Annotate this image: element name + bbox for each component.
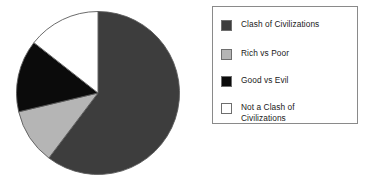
legend-label-rich-vs-poor: Rich vs Poor [241, 48, 289, 59]
legend-swatch-clash-of-civilizations [221, 20, 232, 31]
legend-swatch-rich-vs-poor [221, 49, 232, 60]
pie-chart-figure: Clash of Civilizations Rich vs Poor Good… [0, 0, 372, 187]
legend-label-good-vs-evil: Good vs Evil [241, 75, 289, 86]
legend-item-clash-of-civilizations[interactable]: Clash of Civilizations [221, 19, 353, 31]
pie-slice-group [16, 12, 179, 175]
chart-legend: Clash of Civilizations Rich vs Poor Good… [212, 6, 358, 124]
legend-label-not-a-clash-of-civilizations: Not a Clash of Civilizations [241, 102, 295, 123]
legend-item-good-vs-evil[interactable]: Good vs Evil [221, 75, 353, 87]
legend-label-clash-of-civilizations: Clash of Civilizations [241, 19, 319, 30]
legend-swatch-not-a-clash-of-civilizations [221, 103, 232, 114]
pie-chart-plot-area [16, 10, 180, 176]
legend-swatch-good-vs-evil [221, 76, 232, 87]
pie-chart-svg [16, 10, 180, 176]
legend-item-not-a-clash-of-civilizations[interactable]: Not a Clash of Civilizations [221, 102, 353, 123]
legend-item-rich-vs-poor[interactable]: Rich vs Poor [221, 48, 353, 60]
